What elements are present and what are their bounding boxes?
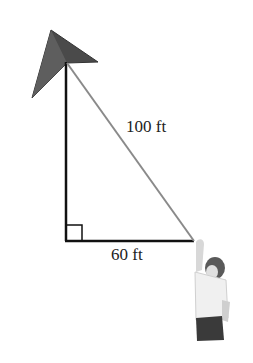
hypotenuse-label: 100 ft xyxy=(126,117,166,137)
kite-string xyxy=(67,63,194,241)
person-icon xyxy=(195,239,230,341)
base-label: 60 ft xyxy=(111,245,143,265)
diagram-canvas xyxy=(0,0,253,363)
right-angle-marker xyxy=(66,225,82,241)
